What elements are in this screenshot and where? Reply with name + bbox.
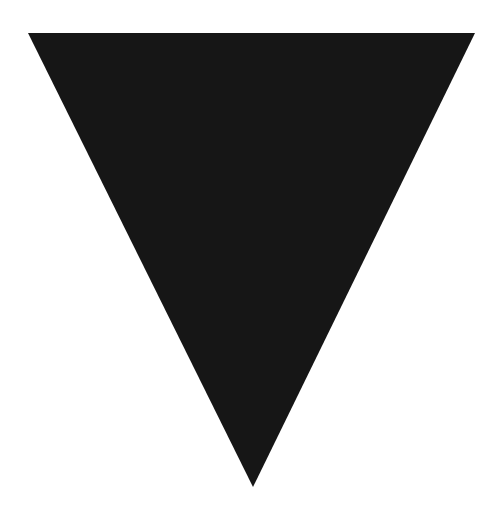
- canvas: [0, 0, 499, 516]
- inverted-triangle-shape: [28, 33, 475, 487]
